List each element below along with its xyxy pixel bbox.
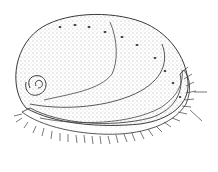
shell-illustration [0,0,218,172]
shell-drawing [0,0,218,172]
